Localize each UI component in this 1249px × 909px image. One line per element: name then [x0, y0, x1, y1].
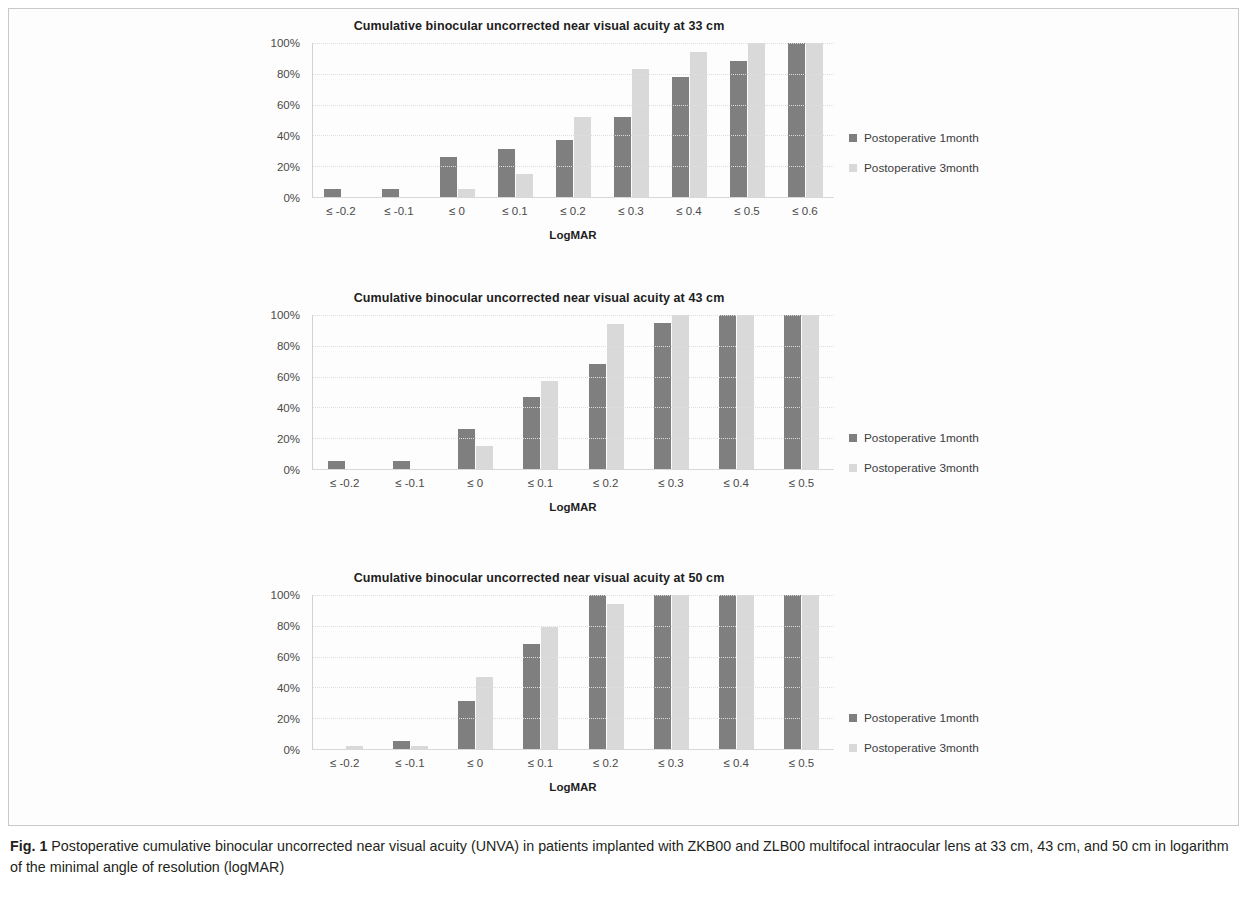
bar-3month — [802, 595, 819, 749]
legend-swatch-icon — [849, 134, 857, 142]
y-axis-tick-label: 80% — [277, 340, 300, 352]
bar-group — [639, 595, 704, 749]
x-axis-tick-label: ≤ 0.5 — [718, 205, 776, 217]
bar-1month — [654, 323, 671, 469]
bar-1month — [382, 189, 399, 197]
y-axis-tick-label: 40% — [277, 130, 300, 142]
x-axis-tick-label: ≤ 0.3 — [638, 757, 703, 769]
bar-group — [313, 315, 378, 469]
y-axis-tick-label: 40% — [277, 402, 300, 414]
bar-group — [639, 315, 704, 469]
x-axis-tick-label: ≤ 0.1 — [508, 477, 573, 489]
bar-1month — [614, 117, 631, 197]
x-axis-tick-label: ≤ -0.1 — [377, 757, 442, 769]
legend-swatch-icon — [849, 714, 857, 722]
bar-1month — [788, 43, 805, 197]
x-axis-tick-label: ≤ 0.1 — [486, 205, 544, 217]
bar-group — [508, 315, 573, 469]
bar-group — [443, 595, 508, 749]
y-axis-tick-label: 80% — [277, 68, 300, 80]
gridline — [313, 105, 834, 106]
gridline — [313, 595, 834, 596]
gridline — [313, 43, 834, 44]
plot-wrap: 0%20%40%60%80%100% ≤ -0.2≤ -0.1≤ 0≤ 0.1≤… — [264, 43, 834, 208]
y-axis-tick-label: 20% — [277, 161, 300, 173]
y-axis-tick-label: 60% — [277, 99, 300, 111]
bar-1month — [589, 595, 606, 749]
gridline — [313, 166, 834, 167]
y-axis-tick-label: 0% — [283, 464, 300, 476]
legend-swatch-icon — [849, 744, 857, 752]
chart-legend: Postoperative 1month Postoperative 3mont… — [849, 711, 1099, 771]
chart-title: Cumulative binocular uncorrected near vi… — [189, 571, 889, 585]
bar-3month — [802, 315, 819, 469]
bar-1month — [393, 461, 410, 469]
bar-group — [378, 315, 443, 469]
legend-swatch-icon — [849, 434, 857, 442]
bar-3month — [737, 595, 754, 749]
x-axis-tick-label: ≤ 0.1 — [508, 757, 573, 769]
bar-group — [371, 43, 429, 197]
bar-3month — [748, 43, 765, 197]
gridline — [313, 657, 834, 658]
legend-label: Postoperative 1month — [864, 711, 979, 725]
y-axis-tick-label: 20% — [277, 713, 300, 725]
bar-3month — [737, 315, 754, 469]
bar-1month — [672, 77, 689, 197]
bar-group — [574, 315, 639, 469]
y-axis-tick-label: 0% — [283, 192, 300, 204]
gridline — [313, 346, 834, 347]
legend-label: Postoperative 1month — [864, 131, 979, 145]
y-axis: 0%20%40%60%80%100% — [264, 43, 306, 198]
chart-unva-33cm: Cumulative binocular uncorrected near vi… — [9, 13, 1240, 275]
bar-1month — [719, 315, 736, 469]
y-axis-tick-label: 20% — [277, 433, 300, 445]
bar-1month — [719, 595, 736, 749]
plot-area — [312, 595, 834, 750]
bar-group — [769, 595, 834, 749]
bar-1month — [556, 140, 573, 197]
x-axis-tick-label: ≤ 0.3 — [602, 205, 660, 217]
bar-1month — [784, 595, 801, 749]
x-axis-tick-label: ≤ -0.2 — [312, 205, 370, 217]
legend-item-1month: Postoperative 1month — [849, 431, 1099, 445]
bar-group — [602, 43, 660, 197]
bars-layer — [313, 595, 834, 749]
bar-1month — [328, 461, 345, 469]
x-axis-tick-label: ≤ 0.4 — [704, 477, 769, 489]
x-axis-tick-label: ≤ 0.2 — [544, 205, 602, 217]
gridline — [313, 377, 834, 378]
bar-group — [704, 595, 769, 749]
legend-item-1month: Postoperative 1month — [849, 131, 1099, 145]
gridline — [313, 197, 834, 198]
bar-3month — [806, 43, 823, 197]
gridline — [313, 407, 834, 408]
x-axis-tick-label: ≤ 0.4 — [704, 757, 769, 769]
bar-3month — [672, 595, 689, 749]
y-axis-tick-label: 100% — [271, 37, 300, 49]
bar-group — [574, 595, 639, 749]
x-axis-tick-label: ≤ 0.6 — [776, 205, 834, 217]
bar-1month — [498, 149, 515, 197]
bar-3month — [458, 189, 475, 197]
y-axis-tick-label: 0% — [283, 744, 300, 756]
gridline — [313, 135, 834, 136]
x-axis-tick-label: ≤ 0.5 — [769, 477, 834, 489]
bar-group — [704, 315, 769, 469]
bar-group — [776, 43, 834, 197]
gridline — [313, 626, 834, 627]
bar-group — [545, 43, 603, 197]
legend-item-3month: Postoperative 3month — [849, 161, 1099, 175]
bar-1month — [730, 61, 747, 197]
legend-label: Postoperative 3month — [864, 461, 979, 475]
bar-group — [769, 315, 834, 469]
figure-label: Fig. 1 — [10, 838, 47, 854]
bar-3month — [476, 446, 493, 469]
legend-label: Postoperative 3month — [864, 741, 979, 755]
legend-label: Postoperative 3month — [864, 161, 979, 175]
chart-legend: Postoperative 1month Postoperative 3mont… — [849, 431, 1099, 491]
bar-3month — [672, 315, 689, 469]
x-axis-tick-label: ≤ 0.4 — [660, 205, 718, 217]
bar-group — [718, 43, 776, 197]
y-axis: 0%20%40%60%80%100% — [264, 315, 306, 470]
